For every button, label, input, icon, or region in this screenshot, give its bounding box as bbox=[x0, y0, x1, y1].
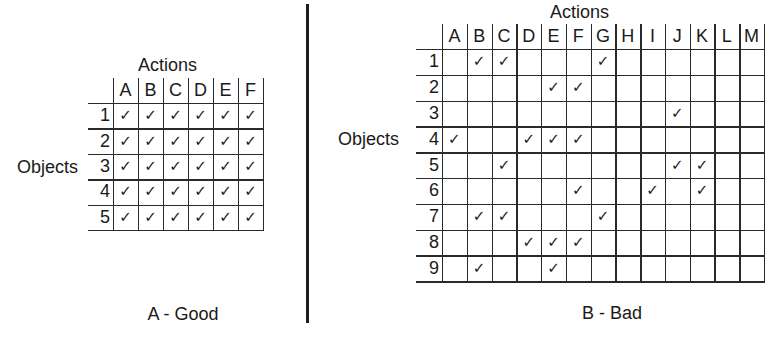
checkmark-icon: ✓ bbox=[498, 209, 511, 224]
checkmark-icon: ✓ bbox=[194, 108, 207, 123]
matrix-cell: ✓ bbox=[138, 179, 163, 204]
row-header: 8 bbox=[416, 230, 442, 256]
matrix-cell: ✓ bbox=[566, 126, 591, 152]
column-header: D bbox=[516, 24, 541, 49]
checkmark-icon: ✓ bbox=[194, 184, 207, 199]
matrix-cell: ✓ bbox=[467, 49, 492, 75]
checkmark-icon: ✓ bbox=[119, 159, 132, 174]
matrix-cell: ✓ bbox=[238, 128, 263, 153]
column-header: A bbox=[442, 24, 467, 49]
checkmark-icon: ✓ bbox=[547, 132, 560, 147]
column-header: J bbox=[665, 24, 690, 49]
checkmark-icon: ✓ bbox=[572, 132, 585, 147]
checkmark-icon: ✓ bbox=[169, 108, 182, 123]
row-header: 2 bbox=[416, 75, 442, 101]
column-header: M bbox=[739, 24, 764, 49]
matrix-cell: ✓ bbox=[492, 204, 517, 230]
matrix-cell: ✓ bbox=[516, 230, 541, 256]
matrix-cell: ✓ bbox=[113, 103, 138, 128]
checkmark-icon: ✓ bbox=[219, 134, 232, 149]
grid-horizontal-line bbox=[416, 101, 765, 102]
matrix-cell: ✓ bbox=[566, 178, 591, 204]
column-header: B bbox=[467, 24, 492, 49]
checkmark-icon: ✓ bbox=[169, 159, 182, 174]
checkmark-icon: ✓ bbox=[219, 159, 232, 174]
checkmark-icon: ✓ bbox=[169, 210, 182, 225]
column-header: F bbox=[566, 24, 591, 49]
column-header: C bbox=[163, 78, 188, 103]
matrix-cell: ✓ bbox=[213, 179, 238, 204]
matrix-cell: ✓ bbox=[541, 126, 566, 152]
checkmark-icon: ✓ bbox=[144, 184, 157, 199]
matrix-cell: ✓ bbox=[516, 126, 541, 152]
column-header: G bbox=[591, 24, 616, 49]
column-header: E bbox=[213, 78, 238, 103]
matrix-cell: ✓ bbox=[213, 103, 238, 128]
panel-caption: A - Good bbox=[147, 304, 218, 324]
matrix-cell: ✓ bbox=[238, 205, 263, 230]
matrix-cell: ✓ bbox=[188, 103, 213, 128]
matrix-cell: ✓ bbox=[138, 103, 163, 128]
checkmark-icon: ✓ bbox=[119, 134, 132, 149]
matrix-cell: ✓ bbox=[213, 205, 238, 230]
checkmark-icon: ✓ bbox=[119, 184, 132, 199]
matrix-cell: ✓ bbox=[238, 179, 263, 204]
checkmark-icon: ✓ bbox=[473, 261, 486, 276]
checkmark-icon: ✓ bbox=[448, 132, 461, 147]
matrix-cell: ✓ bbox=[591, 204, 616, 230]
row-header: 9 bbox=[416, 255, 442, 281]
column-header: D bbox=[188, 78, 213, 103]
matrix-cell: ✓ bbox=[492, 49, 517, 75]
checkmark-icon: ✓ bbox=[219, 108, 232, 123]
checkmark-icon: ✓ bbox=[194, 134, 207, 149]
checkmark-icon: ✓ bbox=[646, 183, 659, 198]
checkmark-icon: ✓ bbox=[597, 54, 610, 69]
checkmark-icon: ✓ bbox=[194, 159, 207, 174]
matrix-cell: ✓ bbox=[188, 154, 213, 179]
matrix-cell: ✓ bbox=[163, 154, 188, 179]
matrix-cell: ✓ bbox=[188, 205, 213, 230]
matrix-cell: ✓ bbox=[163, 128, 188, 153]
row-header: 5 bbox=[88, 205, 113, 230]
checkmark-icon: ✓ bbox=[473, 54, 486, 69]
checkmark-icon: ✓ bbox=[119, 210, 132, 225]
column-header: F bbox=[238, 78, 263, 103]
checkmark-icon: ✓ bbox=[498, 158, 511, 173]
matrix-cell: ✓ bbox=[690, 152, 715, 178]
matrix-cell: ✓ bbox=[566, 75, 591, 101]
matrix-cell: ✓ bbox=[113, 205, 138, 230]
checkmark-icon: ✓ bbox=[597, 209, 610, 224]
panel-caption: B - Bad bbox=[582, 303, 642, 323]
actions-label: Actions bbox=[550, 2, 609, 22]
actions-label: Actions bbox=[138, 55, 197, 75]
row-header: 4 bbox=[416, 126, 442, 152]
row-header: 7 bbox=[416, 204, 442, 230]
row-header: 3 bbox=[416, 101, 442, 127]
checkmark-icon: ✓ bbox=[219, 184, 232, 199]
row-header: 6 bbox=[416, 178, 442, 204]
column-header: A bbox=[113, 78, 138, 103]
row-header: 4 bbox=[88, 179, 113, 204]
matrix-cell: ✓ bbox=[665, 152, 690, 178]
matrix-cell: ✓ bbox=[213, 128, 238, 153]
objects-label: Objects bbox=[17, 157, 78, 177]
matrix-cell: ✓ bbox=[467, 255, 492, 281]
matrix-cell: ✓ bbox=[492, 152, 517, 178]
matrix-cell: ✓ bbox=[665, 101, 690, 127]
checkmark-icon: ✓ bbox=[244, 210, 257, 225]
checkmark-icon: ✓ bbox=[169, 134, 182, 149]
column-header: I bbox=[640, 24, 665, 49]
matrix-cell: ✓ bbox=[163, 103, 188, 128]
row-header: 5 bbox=[416, 152, 442, 178]
checkmark-icon: ✓ bbox=[572, 183, 585, 198]
matrix-cell: ✓ bbox=[690, 178, 715, 204]
checkmark-icon: ✓ bbox=[244, 108, 257, 123]
panel-divider bbox=[306, 4, 309, 323]
column-header: L bbox=[714, 24, 739, 49]
checkmark-icon: ✓ bbox=[696, 158, 709, 173]
matrix-cell: ✓ bbox=[566, 230, 591, 256]
column-header: C bbox=[492, 24, 517, 49]
checkmark-icon: ✓ bbox=[169, 184, 182, 199]
matrix-cell: ✓ bbox=[138, 128, 163, 153]
matrix-cell: ✓ bbox=[213, 154, 238, 179]
